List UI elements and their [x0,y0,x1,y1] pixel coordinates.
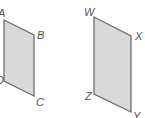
parallelograms-diagram: A B C D W X Y Z [0,0,145,118]
vertex-label-w: W [84,6,96,18]
vertex-label-x: X [134,30,143,42]
vertex-label-b: B [37,29,44,41]
vertex-label-y: Y [133,110,141,118]
parallelogram-wxyz [94,17,131,112]
vertex-label-z: Z [84,90,93,102]
parallelogram-abcd [4,20,34,96]
vertex-label-d: D [0,74,4,86]
vertex-label-a: A [0,7,5,19]
vertex-label-c: C [36,96,44,108]
